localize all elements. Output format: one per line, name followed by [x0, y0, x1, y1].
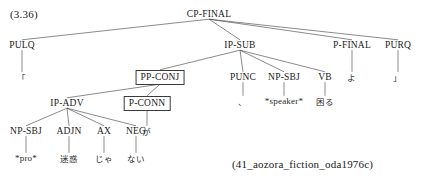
terminal-t-pro: *pro*: [15, 153, 37, 163]
terminal-t-adjn: 迷惑: [60, 152, 78, 164]
node-pulq: PULQ: [9, 40, 35, 50]
node-vb: VB: [318, 72, 332, 82]
tree-edge: [209, 19, 352, 40]
node-ax: AX: [97, 126, 111, 136]
node-p-final: P-FINAL: [333, 40, 371, 50]
terminal-t-punc: 、: [238, 95, 247, 107]
node-purq: PURQ: [385, 40, 411, 50]
terminal-t-purq: 」: [393, 71, 402, 83]
tree-edge: [67, 108, 69, 126]
terminal-t-neg: ない: [127, 152, 145, 164]
tree-edge: [209, 19, 398, 40]
node-adjn: ADJN: [56, 126, 81, 136]
node-punc: PUNC: [230, 72, 256, 82]
tree-edge: [26, 108, 67, 126]
tree-edge: [67, 108, 104, 126]
corpus-citation: (41_aozora_fiction_oda1976c): [232, 158, 373, 170]
terminal-t-final: よ: [347, 71, 356, 83]
node-box-p-conn: P-CONN: [124, 96, 171, 111]
node-p-conn: P-CONN: [124, 98, 171, 108]
node-ip-sub: IP-SUB: [224, 40, 255, 50]
node-pp-conj: PP-CONJ: [136, 72, 185, 82]
node-np-sbj-2: NP-SBJ: [268, 72, 300, 82]
node-ip-adv: IP-ADV: [50, 98, 83, 108]
tree-edge: [160, 50, 240, 70]
tree-edge: [22, 19, 209, 40]
tree-edge: [240, 50, 284, 72]
terminal-t-conn: が: [142, 125, 151, 137]
node-cp-final: CP-FINAL: [187, 9, 231, 19]
node-box-pp-conj: PP-CONJ: [136, 70, 185, 85]
terminal-t-ax: じゃ: [95, 152, 113, 164]
terminal-t-vb: 困る: [316, 95, 334, 107]
node-np-sbj-1: NP-SBJ: [10, 126, 42, 136]
tree-edge: [240, 50, 243, 72]
terminal-t-pulq: 「: [17, 71, 26, 83]
terminal-t-spk: *speaker*: [265, 96, 303, 106]
tree-edge: [240, 50, 325, 72]
